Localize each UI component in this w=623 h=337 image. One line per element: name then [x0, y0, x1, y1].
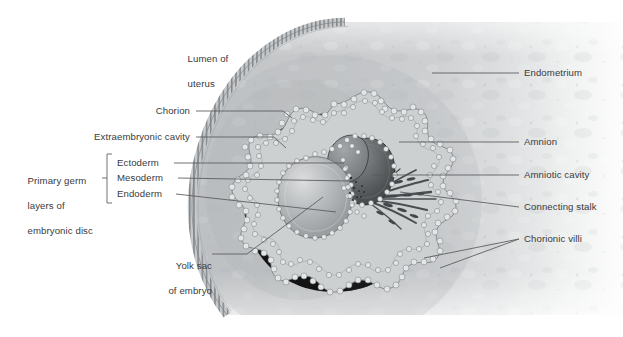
label-lumen-of-uterus: Lumen of uterus — [182, 41, 228, 91]
label-primary-germ-layers: Primary germ layers of embryonic disc — [22, 163, 93, 237]
label-yolk-sac: Yolk sac of embryo — [100, 248, 212, 298]
label-ectoderm: Ectoderm — [117, 157, 159, 169]
label-mesoderm: Mesoderm — [117, 172, 163, 184]
label-primary-germ-layers-line1: Primary germ — [28, 175, 87, 186]
label-yolk-sac-line2: of embryo — [168, 285, 212, 296]
label-amnion: Amnion — [524, 136, 557, 148]
label-primary-germ-layers-line2: layers of — [28, 200, 65, 211]
label-chorion: Chorion — [60, 105, 190, 117]
bracket-germ-layers — [107, 154, 112, 203]
label-endometrium: Endometrium — [524, 67, 582, 79]
label-lumen-of-uterus-line2: uterus — [188, 78, 215, 89]
label-endoderm: Endoderm — [117, 188, 162, 200]
label-yolk-sac-line1: Yolk sac — [176, 260, 212, 271]
label-connecting-stalk: Connecting stalk — [524, 201, 597, 213]
label-extraembryonic-cavity: Extraembryonic cavity — [30, 131, 190, 143]
germ-layer-brackets — [102, 154, 112, 203]
label-amniotic-cavity: Amniotic cavity — [524, 169, 589, 181]
label-lumen-of-uterus-line1: Lumen of — [188, 53, 229, 64]
label-primary-germ-layers-line3: embryonic disc — [28, 225, 93, 236]
label-chorionic-villi: Chorionic villi — [524, 233, 582, 245]
